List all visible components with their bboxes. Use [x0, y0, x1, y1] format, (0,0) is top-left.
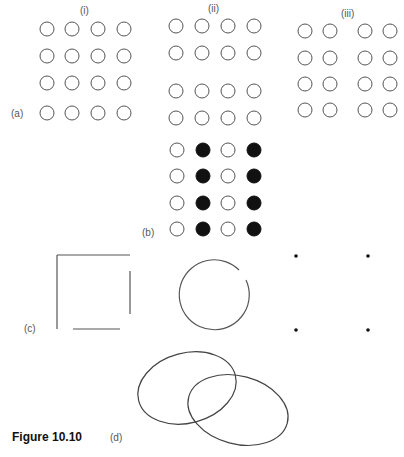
open-circle	[170, 196, 184, 210]
open-circle	[247, 84, 261, 98]
open-circle	[117, 106, 131, 120]
grid-b	[170, 143, 261, 236]
dot	[366, 254, 370, 258]
open-circle	[383, 103, 397, 117]
overlapping-ellipses	[130, 341, 296, 456]
open-circle	[91, 106, 105, 120]
open-circle	[298, 77, 312, 91]
open-circle	[323, 77, 337, 91]
grid-a-ii	[169, 19, 261, 125]
open-circle	[195, 46, 209, 60]
filled-circle	[247, 169, 261, 183]
open-circle	[195, 84, 209, 98]
open-circle	[65, 106, 79, 120]
open-circle	[323, 24, 337, 38]
filled-circle	[196, 143, 210, 157]
open-circle	[91, 49, 105, 63]
ellipse-left	[130, 341, 245, 434]
dot	[294, 328, 298, 332]
corner-dots	[294, 254, 370, 332]
open-circle	[383, 24, 397, 38]
open-circle	[221, 169, 235, 183]
open-circle	[221, 143, 235, 157]
open-circle	[323, 103, 337, 117]
dot	[366, 328, 370, 332]
open-circle	[195, 111, 209, 125]
open-circle	[247, 46, 261, 60]
open-circle	[358, 103, 372, 117]
open-circle	[170, 222, 184, 236]
filled-circle	[196, 196, 210, 210]
open-circle	[117, 49, 131, 63]
open-circle	[169, 46, 183, 60]
broken-circle	[179, 260, 249, 330]
open-circle	[91, 22, 105, 36]
open-circle	[169, 19, 183, 33]
filled-circle	[196, 222, 210, 236]
open-circle	[169, 84, 183, 98]
open-circle	[40, 49, 54, 63]
open-circle	[221, 111, 235, 125]
open-circle	[91, 76, 105, 90]
open-circle	[169, 111, 183, 125]
dot	[294, 254, 298, 258]
grid-a-i	[40, 22, 131, 120]
open-circle	[221, 19, 235, 33]
open-circle	[383, 51, 397, 65]
open-circle	[40, 22, 54, 36]
open-circle	[117, 22, 131, 36]
incomplete-square	[57, 255, 130, 329]
open-circle	[298, 24, 312, 38]
open-circle	[221, 84, 235, 98]
figure-canvas	[0, 0, 404, 457]
open-circle	[221, 196, 235, 210]
open-circle	[65, 49, 79, 63]
filled-circle	[247, 222, 261, 236]
open-circle	[195, 19, 209, 33]
open-circle	[247, 19, 261, 33]
filled-circle	[247, 196, 261, 210]
open-circle	[298, 51, 312, 65]
open-circle	[170, 169, 184, 183]
filled-circle	[247, 143, 261, 157]
open-circle	[358, 24, 372, 38]
open-circle	[40, 76, 54, 90]
open-circle	[358, 51, 372, 65]
open-circle	[40, 106, 54, 120]
open-circle	[65, 22, 79, 36]
filled-circle	[196, 169, 210, 183]
grid-a-iii	[298, 24, 397, 117]
open-circle	[383, 77, 397, 91]
open-circle	[298, 103, 312, 117]
open-circle	[170, 143, 184, 157]
ellipse-right	[180, 364, 296, 456]
open-circle	[221, 222, 235, 236]
open-circle	[65, 76, 79, 90]
open-circle	[117, 76, 131, 90]
open-circle	[247, 111, 261, 125]
open-circle	[358, 77, 372, 91]
open-circle	[323, 51, 337, 65]
open-circle	[221, 46, 235, 60]
